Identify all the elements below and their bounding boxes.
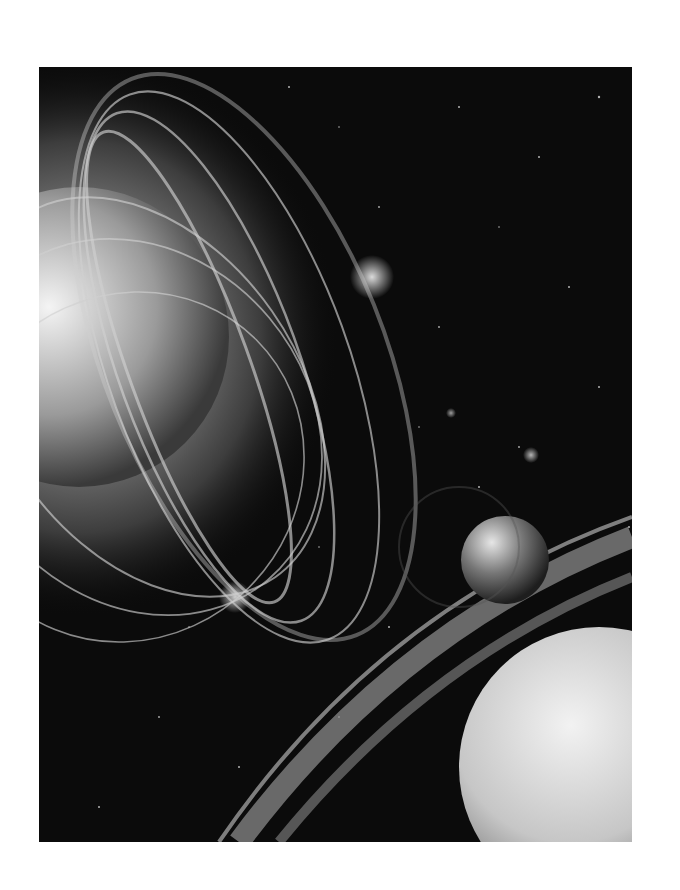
space-illustration — [39, 67, 632, 842]
space-scene-graphic — [39, 67, 632, 842]
small-planet — [461, 516, 549, 604]
large-planet — [459, 627, 632, 842]
